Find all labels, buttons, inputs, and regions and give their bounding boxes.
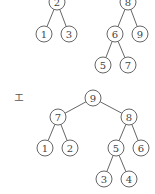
tree-node: 6	[107, 26, 123, 42]
tree-node: 5	[95, 57, 111, 73]
node-value: 5	[100, 60, 106, 71]
tree-top-right: 86957	[95, 0, 148, 73]
tree-node: 8	[121, 109, 137, 125]
tree-edge	[106, 41, 112, 57]
node-value: 6	[138, 143, 144, 154]
tree-node: 5	[108, 140, 124, 156]
tree-node: 1	[36, 26, 52, 42]
tree-node: 9	[85, 90, 101, 106]
tree-node: 1	[37, 140, 53, 156]
tree-edge	[119, 155, 126, 171]
tree-edge	[132, 124, 138, 140]
tree-edge	[131, 9, 137, 26]
node-value: 4	[126, 174, 132, 185]
node-value: 7	[125, 60, 131, 71]
node-value: 2	[54, 0, 60, 8]
tree-edge	[61, 124, 67, 140]
node-value: 2	[67, 143, 73, 154]
tree-node: 8	[120, 0, 136, 10]
tree-node: 9	[132, 26, 148, 42]
node-value: 9	[90, 93, 96, 104]
tree-edge	[60, 9, 66, 26]
tree-edge	[118, 41, 125, 57]
choice-label: エ	[14, 92, 24, 103]
node-value: 3	[66, 29, 72, 40]
node-value: 1	[41, 29, 47, 40]
tree-edge	[47, 9, 54, 26]
node-value: 8	[125, 0, 131, 8]
node-value: 7	[55, 112, 61, 123]
node-value: 1	[42, 143, 48, 154]
tree-node: 2	[62, 140, 78, 156]
node-value: 9	[137, 29, 143, 40]
tree-node: 6	[133, 140, 149, 156]
tree-node: 3	[96, 171, 112, 187]
tree-node: 7	[50, 109, 66, 125]
node-value: 6	[112, 29, 118, 40]
tree-edge	[107, 155, 113, 171]
tree-e: 978125634エ	[14, 90, 149, 187]
node-value: 5	[113, 143, 119, 154]
tree-edge	[65, 102, 86, 113]
tree-edge	[118, 9, 125, 26]
tree-node: 3	[61, 26, 77, 42]
node-value: 3	[101, 174, 107, 185]
tree-edge	[48, 124, 55, 140]
tree-edge	[119, 124, 126, 140]
tree-node: 2	[49, 0, 65, 10]
tree-node: 4	[121, 171, 137, 187]
tree-node: 7	[120, 57, 136, 73]
node-value: 8	[126, 112, 132, 123]
tree-diagram-canvas: 21386957978125634エ	[0, 0, 155, 194]
tree-edge	[100, 102, 122, 114]
tree-top-left: 213	[36, 0, 77, 42]
